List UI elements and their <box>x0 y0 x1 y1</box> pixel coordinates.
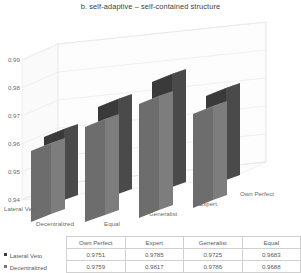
x-axis-label-generalist: Generalist <box>149 210 177 217</box>
plot-area: 0.99 0.98 0.97 0.96 0.95 0.94 Lateral Ve… <box>0 14 301 222</box>
y-tick-label: 0.95 <box>0 168 20 175</box>
depth-axis-label-decentralized: Decentralized <box>36 220 74 227</box>
table-header-generalist: Generalist <box>184 237 243 249</box>
y-tick-label: 0.99 <box>0 56 20 63</box>
bar-decentralized-expert <box>139 91 173 218</box>
table-row: Lateral Veto 0.9751 0.9785 0.9725 0.9683 <box>0 249 301 261</box>
table-cell: 0.9725 <box>184 249 243 261</box>
table-cell: 0.9785 <box>125 249 184 261</box>
y-tick-label: 0.98 <box>0 84 20 91</box>
table-header-row: Own Perfect Expert Generalist Equal <box>0 237 301 249</box>
legend-label: Decentralized <box>10 263 47 270</box>
x-axis-label-own-perfect: Own Perfect <box>240 190 274 197</box>
table-cell: 0.9683 <box>242 249 301 261</box>
table-corner-cell <box>0 237 67 249</box>
data-table-wrap: Own Perfect Expert Generalist Equal Late… <box>0 236 301 270</box>
legend-item-decentralized[interactable]: Decentralized <box>0 261 67 273</box>
table-cell: 0.9751 <box>67 249 126 261</box>
table-header-own-perfect: Own Perfect <box>67 237 126 249</box>
legend-swatch-icon <box>4 265 7 268</box>
data-table: Own Perfect Expert Generalist Equal Late… <box>0 236 301 273</box>
table-header-equal: Equal <box>242 237 301 249</box>
bar-decentralized-generalist <box>85 114 119 222</box>
chart-title: b. self-adaptive – self-contained struct… <box>0 2 301 11</box>
y-tick-label: 0.94 <box>0 196 20 203</box>
depth-axis-label-lateral-veto: Lateral Veto <box>4 205 37 212</box>
y-tick-label: 0.96 <box>0 140 20 147</box>
table-cell: 0.9817 <box>125 261 184 273</box>
legend-item-lateral-veto[interactable]: Lateral Veto <box>0 249 67 261</box>
table-cell: 0.9688 <box>242 261 301 273</box>
x-axis-label-expert: Expert <box>199 200 217 207</box>
legend-label: Lateral Veto <box>10 251 43 258</box>
x-axis-label-equal: Equal <box>104 220 120 227</box>
y-tick-label: 0.97 <box>0 112 20 119</box>
table-row: Decentralized 0.9759 0.9817 0.9786 0.968… <box>0 261 301 273</box>
table-cell: 0.9759 <box>67 261 126 273</box>
bar-decentralized-own-perfect <box>193 101 227 208</box>
table-header-expert: Expert <box>125 237 184 249</box>
table-cell: 0.9786 <box>184 261 243 273</box>
legend-swatch-icon <box>4 253 7 256</box>
